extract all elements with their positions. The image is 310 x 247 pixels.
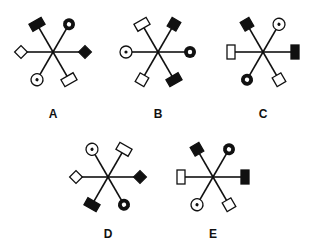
black-square-icon bbox=[190, 142, 204, 156]
black-square-icon bbox=[240, 17, 254, 31]
figure-label: D bbox=[58, 227, 158, 241]
black-ring-icon bbox=[116, 197, 132, 213]
black-ring-icon bbox=[184, 46, 196, 58]
black-square-icon bbox=[167, 17, 181, 31]
black-diamond-icon bbox=[79, 46, 92, 59]
white-rect-icon bbox=[134, 17, 150, 31]
white-diamond-icon bbox=[70, 171, 83, 184]
black-ring-icon bbox=[221, 141, 237, 157]
black-ring-icon bbox=[61, 16, 77, 32]
black-rect-icon bbox=[84, 198, 100, 212]
white-dotcircle-icon bbox=[271, 16, 287, 32]
white-rect-icon bbox=[116, 142, 132, 156]
white-vrect-icon bbox=[177, 170, 185, 184]
white-dotcircle-icon bbox=[84, 141, 100, 157]
figure-label: E bbox=[163, 227, 263, 241]
figure-e: E bbox=[163, 125, 263, 245]
figure-label: C bbox=[213, 107, 310, 121]
black-vrect-icon bbox=[241, 170, 249, 184]
figure-a: A bbox=[3, 0, 103, 120]
black-ring-icon bbox=[239, 72, 255, 88]
white-vrect-icon bbox=[227, 45, 235, 59]
white-rect-icon bbox=[61, 73, 77, 87]
white-dotcircle-icon bbox=[29, 72, 45, 88]
figure-b: B bbox=[108, 0, 208, 120]
black-vrect-icon bbox=[291, 45, 299, 59]
white-square-icon bbox=[222, 198, 236, 212]
figure-d: D bbox=[58, 125, 158, 245]
white-square-icon bbox=[272, 73, 286, 87]
black-rect-icon bbox=[166, 73, 182, 87]
white-square-icon bbox=[135, 73, 149, 87]
black-diamond-icon bbox=[134, 171, 147, 184]
figure-label: B bbox=[108, 107, 208, 121]
black-rect-icon bbox=[29, 17, 45, 31]
figure-c: C bbox=[213, 0, 310, 120]
white-diamond-icon bbox=[15, 46, 28, 59]
white-dotcircle-icon bbox=[120, 46, 132, 58]
white-dotcircle-icon bbox=[189, 197, 205, 213]
figure-label: A bbox=[3, 107, 103, 121]
